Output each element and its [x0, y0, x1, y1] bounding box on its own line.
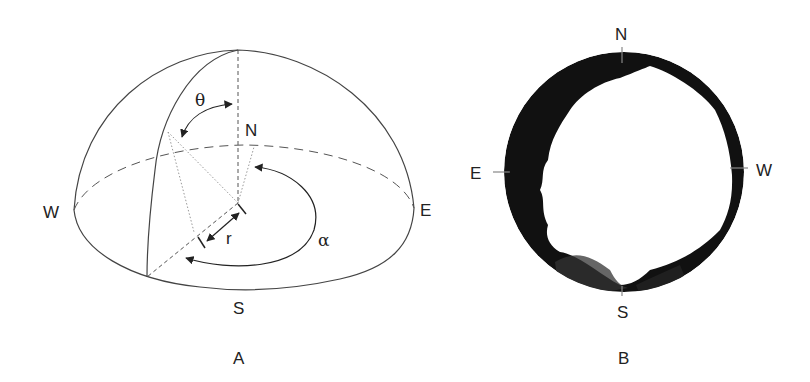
- label-south-a: S: [233, 299, 244, 318]
- alpha-arrow: [186, 167, 316, 266]
- tick-mark: [198, 237, 205, 248]
- equator-front: [74, 208, 414, 290]
- caption-a: A: [233, 349, 245, 368]
- tick-mark: [238, 204, 246, 214]
- alpha-symbol: α: [318, 230, 330, 250]
- projection-line: [168, 132, 194, 232]
- dome-outline: [74, 50, 414, 210]
- equator-back: [74, 145, 414, 210]
- hemisphere-diagram: N W E S θ α r A: [43, 50, 431, 368]
- meridian-arc: [147, 50, 238, 277]
- projection-line: [168, 132, 238, 203]
- figure: N W E S θ α r A N E W S B: [0, 0, 810, 382]
- theta-symbol: θ: [195, 90, 205, 110]
- r-arrow: [207, 213, 239, 241]
- label-west-b: W: [756, 161, 772, 180]
- projection-line: [238, 147, 254, 203]
- label-north-b: N: [615, 25, 627, 44]
- label-north-a: N: [245, 121, 257, 140]
- label-east-b: E: [470, 164, 481, 183]
- label-south-b: S: [617, 303, 628, 322]
- r-symbol: r: [226, 229, 232, 248]
- fisheye-photo: N E W S B: [470, 25, 772, 368]
- label-east-a: E: [420, 201, 431, 220]
- caption-b: B: [618, 349, 629, 368]
- theta-arrow: [182, 104, 232, 137]
- label-west-a: W: [43, 203, 59, 222]
